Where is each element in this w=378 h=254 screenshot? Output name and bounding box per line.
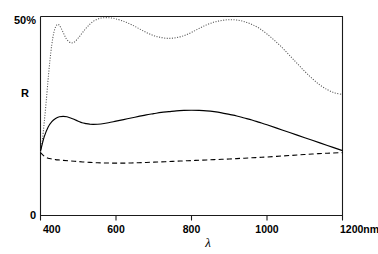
curve-solid-series: [41, 110, 343, 151]
x-axis-title: λ: [204, 235, 211, 250]
x-tick-label-1000: 1000: [255, 223, 279, 235]
x-tick-label-800: 800: [183, 223, 201, 235]
chart-canvas: 50% 0 R 400 600 800 1000 1200nm λ: [0, 0, 378, 254]
y-axis-title: R: [21, 87, 29, 99]
frame-rect: [41, 17, 343, 216]
y-axis-min-label: 0: [30, 209, 36, 221]
plot-frame: [41, 17, 343, 216]
x-tick-label-400: 400: [43, 223, 61, 235]
y-axis-max-label: 50%: [14, 14, 36, 26]
curve-dashed-series: [41, 153, 343, 164]
reflectance-spectrum-figure: 50% 0 R 400 600 800 1000 1200nm λ: [0, 0, 378, 254]
curve-dotted-series: [41, 18, 343, 152]
x-axis-ticks: [41, 216, 343, 221]
x-tick-label-600: 600: [107, 223, 125, 235]
x-tick-label-1200: 1200nm: [340, 223, 378, 235]
data-curves: [41, 18, 343, 164]
